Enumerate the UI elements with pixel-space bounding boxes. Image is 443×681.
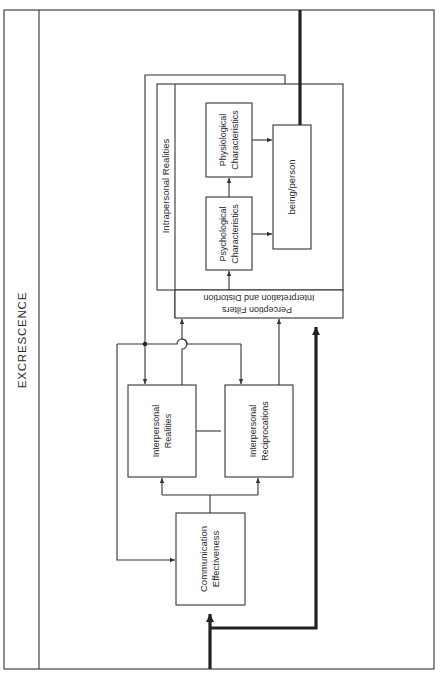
arrow-realities-to-filters [182, 319, 187, 385]
perception-filters-line1: Perception Filters [221, 305, 292, 315]
interpersonal-reciprocations-line1: Interpersonal [248, 405, 258, 458]
interpersonal-reciprocations-line2: Reciprocations [260, 401, 270, 461]
being-person-label: being/person [286, 160, 297, 215]
intrapersonal-realities-label: Intrapersonal Realities [160, 138, 171, 233]
psychological-box [206, 197, 252, 270]
communication-model-diagram: EXCRESCENCE Intrapersonal Realities Perc… [0, 0, 443, 681]
feedback-distribution-line [117, 339, 241, 344]
communication-effectiveness-line1: Communication [198, 526, 209, 592]
interpersonal-realities-line2: Realities [163, 413, 173, 448]
interpersonal-realities-box [128, 385, 196, 477]
psychological-line1: Psychological [218, 206, 228, 261]
physiological-box [206, 103, 252, 177]
frame-label: EXCRESCENCE [16, 292, 28, 388]
psychological-line2: Characteristics [230, 204, 240, 264]
communication-effectiveness-line2: Effectiveness [210, 531, 221, 588]
interpersonal-reciprocations-box [225, 385, 293, 477]
physiological-line2: Characteristics [230, 110, 240, 170]
physiological-line1: Physiological [218, 114, 228, 167]
interpersonal-realities-line1: Interpersonal [151, 405, 161, 458]
perception-filters-line2: Interpretation and Distortion [203, 293, 314, 303]
